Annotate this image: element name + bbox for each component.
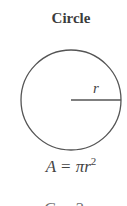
- formula-rhs: πr: [76, 157, 91, 176]
- area-formula: A=πr2: [0, 158, 127, 175]
- radius-label: r: [93, 80, 99, 96]
- formula-exponent: 2: [91, 155, 97, 167]
- formula-equals: =: [61, 157, 71, 176]
- formula-lhs: A: [46, 157, 56, 176]
- circumference-formula-partial: C = 2πr: [0, 200, 127, 206]
